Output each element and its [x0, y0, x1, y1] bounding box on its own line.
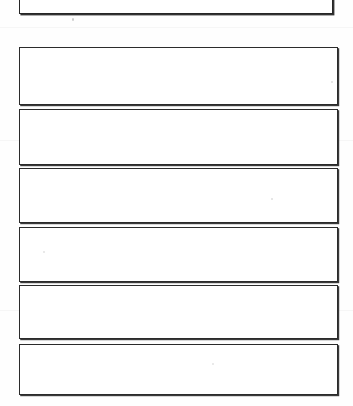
paper-grain-band [0, 27, 353, 28]
answer-box[interactable] [19, 227, 338, 282]
answer-box[interactable] [19, 109, 338, 165]
scan-speck-icon [72, 18, 74, 21]
section-heading-text: 5. Extension [20, 0, 332, 1]
answer-box[interactable] [19, 47, 338, 105]
section-heading-box: 5. Extension [19, 0, 333, 14]
answer-box[interactable] [19, 344, 338, 395]
scan-speck-icon [43, 251, 45, 253]
answer-box[interactable] [19, 285, 338, 339]
scan-speck-icon [212, 363, 214, 365]
scanned-page: 5. Extension [0, 0, 353, 406]
answer-box[interactable] [19, 168, 338, 223]
scan-speck-icon [271, 198, 273, 200]
scan-speck-icon [331, 81, 333, 83]
